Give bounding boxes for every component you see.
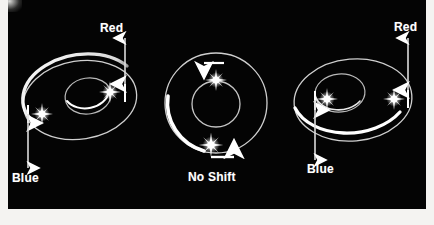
label-left-red: Red bbox=[100, 22, 123, 34]
inner-orbit-near-left bbox=[67, 92, 109, 108]
label-right-blue: Blue bbox=[307, 163, 334, 175]
outer-orbit-near-middle bbox=[167, 96, 204, 151]
star-top-middle bbox=[205, 69, 227, 91]
panel-left bbox=[18, 38, 143, 168]
label-right-red: Red bbox=[394, 21, 417, 33]
star-red-right bbox=[383, 88, 405, 110]
label-middle-no-shift: No Shift bbox=[188, 171, 236, 183]
outer-orbit-near-right bbox=[295, 108, 400, 133]
panel-middle bbox=[165, 53, 267, 157]
star-blue-right bbox=[316, 88, 338, 110]
figure-root: Red Blue No Shift Red Blue bbox=[0, 0, 434, 225]
label-left-blue: Blue bbox=[12, 172, 39, 184]
star-bottom-middle bbox=[199, 133, 224, 158]
panel-right bbox=[291, 38, 416, 160]
figure-plate: Red Blue No Shift Red Blue bbox=[8, 0, 426, 209]
star-red-left bbox=[99, 81, 121, 103]
outer-orbit-far-left bbox=[18, 53, 143, 148]
inner-orbit-far-right bbox=[313, 72, 366, 114]
